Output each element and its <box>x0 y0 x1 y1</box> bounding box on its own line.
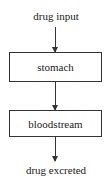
arrow-down-icon <box>55 82 56 110</box>
arrow-down-icon <box>55 27 56 52</box>
arrow-down-icon <box>55 137 56 161</box>
node-label: stomach <box>37 61 74 73</box>
node-stomach: stomach <box>9 52 102 82</box>
output-label: drug excreted <box>0 164 112 177</box>
node-label: bloodstream <box>28 118 82 130</box>
input-label: drug input <box>0 10 112 23</box>
node-bloodstream: bloodstream <box>9 110 102 137</box>
